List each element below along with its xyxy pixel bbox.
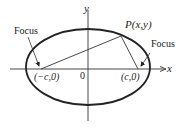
ellipse-diagram: y x 0 Focus Focus (−c,0) (c,0) P(x,y) (0, 0, 185, 130)
focal-radius-right (121, 36, 138, 69)
focus-right-coord: (c,0) (121, 71, 140, 83)
focus-left-label: Focus (14, 25, 38, 36)
focus-left-pointer (28, 37, 39, 66)
x-axis-label: x (166, 62, 172, 74)
focus-right-label: Focus (151, 38, 175, 49)
point-p-label: P(x,y) (124, 18, 152, 31)
focus-left-coord: (−c,0) (34, 71, 60, 83)
origin-label: 0 (80, 70, 85, 81)
focal-radius-left (41, 36, 121, 69)
y-axis-label: y (83, 2, 89, 14)
